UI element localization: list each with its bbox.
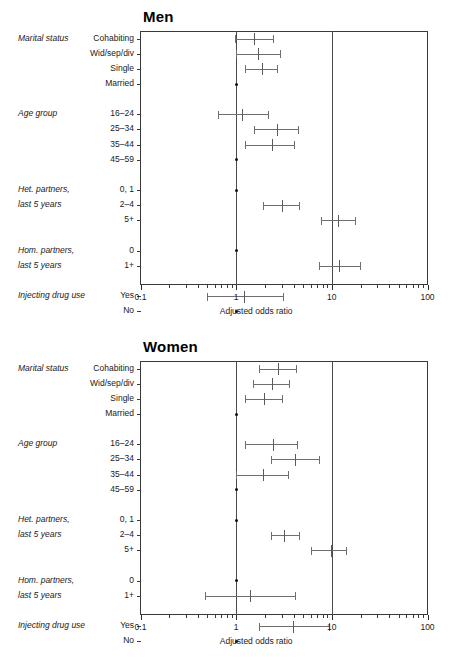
- plot-frame: [140, 361, 428, 615]
- axis-tick-label-10: 10: [302, 292, 362, 302]
- odds-ratio-point-estimate: [282, 200, 283, 212]
- confidence-interval-cap-lower: [236, 50, 237, 58]
- axis-tick: [207, 615, 208, 618]
- confidence-interval-cap-lower: [245, 65, 246, 73]
- axis-tick: [399, 285, 400, 288]
- axis-tick: [413, 615, 414, 618]
- forest-plot-panel-women: Women CohabitingMarital statusWid/sep/di…: [0, 329, 461, 669]
- panel-title-women: Women: [143, 338, 198, 355]
- confidence-interval-cap-upper: [289, 380, 290, 388]
- row-tick: [137, 444, 141, 445]
- row-tick: [137, 550, 141, 551]
- axis-tick: [323, 615, 324, 618]
- axis-tick-label-10: 10: [302, 622, 362, 632]
- odds-ratio-point-estimate: [278, 363, 279, 375]
- axis-tick-label-1: 1: [206, 292, 266, 302]
- row-label-35-44: 35–44: [60, 139, 134, 149]
- axis-tick-label-1: 1: [206, 622, 266, 632]
- confidence-interval-cap-lower: [254, 126, 255, 134]
- odds-ratio-point-estimate: [262, 63, 263, 75]
- confidence-interval-bar: [311, 550, 346, 551]
- axis-tick: [294, 285, 295, 288]
- reference-category-dot: [235, 249, 238, 252]
- confidence-interval-cap-lower: [263, 202, 264, 210]
- row-label-1-: 1+: [60, 590, 134, 600]
- odds-ratio-point-estimate: [339, 260, 340, 272]
- row-tick: [137, 39, 141, 40]
- reference-line-or-10: [332, 361, 333, 615]
- confidence-interval-cap-upper: [277, 65, 278, 73]
- row-tick: [137, 160, 141, 161]
- confidence-interval-cap-lower: [235, 35, 236, 43]
- confidence-interval-cap-lower: [311, 547, 312, 555]
- confidence-interval-cap-lower: [245, 441, 246, 449]
- odds-ratio-point-estimate: [284, 530, 285, 542]
- row-label-no: No: [60, 635, 134, 645]
- row-label-5-: 5+: [60, 544, 134, 554]
- axis-tick: [282, 285, 283, 288]
- axis-tick: [428, 285, 429, 290]
- odds-ratio-point-estimate: [263, 469, 264, 481]
- row-tick: [137, 641, 141, 642]
- row-label-wid-sep-div: Wid/sep/div: [60, 378, 134, 388]
- reference-category-dot: [235, 579, 238, 582]
- row-label-single: Single: [60, 63, 134, 73]
- row-tick: [137, 129, 141, 130]
- axis-tick: [418, 285, 419, 288]
- row-tick: [137, 251, 141, 252]
- axis-tick: [227, 285, 228, 288]
- forest-plot-panel-men: Men CohabitingMarital statusWid/sep/divS…: [0, 0, 461, 335]
- axis-tick: [215, 615, 216, 618]
- odds-ratio-point-estimate: [254, 33, 255, 45]
- row-tick: [137, 384, 141, 385]
- confidence-interval-bar: [236, 475, 287, 476]
- group-label-age-group: Age group: [18, 108, 96, 118]
- row-tick: [137, 581, 141, 582]
- axis-tick: [361, 285, 362, 288]
- axis-tick: [221, 615, 222, 618]
- axis-tick: [198, 615, 199, 618]
- axis-tick: [423, 285, 424, 288]
- axis-tick: [265, 615, 266, 618]
- axis-tick: [232, 285, 233, 288]
- axis-tick: [207, 285, 208, 288]
- row-tick: [137, 459, 141, 460]
- confidence-interval-cap-lower: [205, 592, 206, 600]
- row-label-45-59: 45–59: [60, 154, 134, 164]
- axis-tick: [418, 615, 419, 618]
- odds-ratio-point-estimate: [273, 439, 274, 451]
- row-label-no: No: [60, 305, 134, 315]
- confidence-interval-cap-upper: [280, 50, 281, 58]
- axis-tick: [317, 285, 318, 288]
- confidence-interval-cap-upper: [299, 202, 300, 210]
- confidence-interval-cap-lower: [245, 395, 246, 403]
- row-label-25-34: 25–34: [60, 453, 134, 463]
- x-axis-title: Adjusted odds ratio: [176, 306, 336, 316]
- axis-tick-label-0-1: 0.1: [111, 622, 171, 632]
- axis-tick: [399, 615, 400, 618]
- axis-tick: [186, 285, 187, 288]
- confidence-interval-bar: [218, 114, 268, 115]
- confidence-interval-cap-upper: [294, 141, 295, 149]
- axis-tick-label-100: 100: [398, 622, 458, 632]
- row-tick: [137, 475, 141, 476]
- axis-tick: [169, 285, 170, 288]
- odds-ratio-point-estimate: [272, 139, 273, 151]
- odds-ratio-point-estimate: [338, 215, 339, 227]
- reference-category-dot: [235, 189, 238, 192]
- axis-tick: [423, 615, 424, 618]
- odds-ratio-point-estimate: [277, 124, 278, 136]
- group-label-het-partners-last-5-years: Het. partners,: [18, 514, 96, 524]
- row-label-45-59: 45–59: [60, 484, 134, 494]
- row-tick: [137, 369, 141, 370]
- confidence-interval-cap-lower: [218, 111, 219, 119]
- confidence-interval-cap-upper: [296, 365, 297, 373]
- axis-tick: [413, 285, 414, 288]
- axis-tick-label-100: 100: [398, 292, 458, 302]
- confidence-interval-bar: [245, 145, 294, 146]
- axis-tick: [215, 285, 216, 288]
- odds-ratio-point-estimate: [295, 454, 296, 466]
- odds-ratio-point-estimate: [258, 48, 259, 60]
- axis-tick: [265, 285, 266, 288]
- row-tick: [137, 205, 141, 206]
